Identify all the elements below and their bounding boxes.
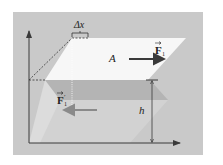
delta-x-label: Δx [73,19,85,30]
shear-stress-diagram: Δx A F 1 F ′ 1 h [0,0,223,165]
area-label: A [108,52,116,64]
svg-text:1: 1 [162,51,165,57]
svg-text:F: F [57,94,64,106]
svg-text:F: F [155,44,162,56]
height-label: h [139,104,145,116]
svg-text:1: 1 [64,101,67,107]
force-bottom-label: F ′ 1 [57,92,67,108]
